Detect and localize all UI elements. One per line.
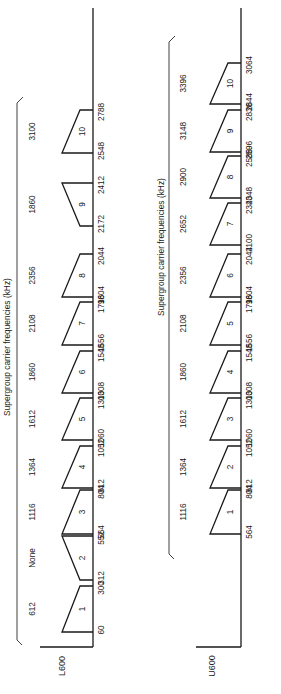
carrier-frequencies-title: Supergroup carrier frequencies (kHz) (156, 178, 166, 316)
supergroup-1: 15648041116 (179, 485, 254, 539)
band-low-frequency: 1308 (245, 381, 254, 400)
supergroup-number: 3 (226, 416, 235, 421)
supergroup-number: 1 (226, 509, 235, 514)
band-low-frequency: 1556 (97, 333, 106, 352)
band-low-frequency: 2100 (245, 233, 254, 252)
supergroup-7: 7210023402652 (179, 195, 254, 252)
supergroup-number: 9 (78, 202, 87, 207)
band-low-frequency: 1804 (97, 285, 106, 304)
carrier-frequency: 1612 (179, 409, 188, 428)
carrier-frequency: 2108 (179, 314, 188, 333)
supergroup-number: 6 (78, 369, 87, 374)
band-low-frequency: 2348 (245, 186, 254, 205)
supergroup-7: 7155617962108 (28, 294, 106, 352)
carrier-frequency: 1364 (28, 457, 37, 476)
carrier-frequency: 3148 (179, 121, 188, 140)
panel-l600: Supergroup carrier frequencies (kHz)L600… (2, 8, 106, 676)
band-high-frequency: 3064 (245, 55, 254, 74)
mastergroup-label: L600 (57, 656, 67, 676)
mastergroup-diagram: Supergroup carrier frequencies (kHz)L600… (0, 0, 281, 694)
carrier-frequency: 3100 (28, 122, 37, 141)
band-low-frequency: 312 (97, 571, 106, 585)
supergroup-number: 1 (78, 606, 87, 611)
band-low-frequency: 812 (97, 479, 106, 493)
supergroup-3: 35648041116 (28, 485, 106, 539)
band-low-frequency: 812 (245, 479, 254, 493)
band-low-frequency: 1804 (245, 285, 254, 304)
carrier-frequency: 612 (28, 602, 37, 616)
carrier-frequency: 1612 (28, 409, 37, 428)
band-low-frequency: 2172 (97, 214, 106, 233)
carrier-frequency: None (28, 548, 37, 568)
panel-u600: Supergroup carrier frequencies (kHz)U600… (156, 8, 254, 677)
carrier-frequency: 1116 (179, 503, 188, 520)
carrier-frequency: 2356 (179, 266, 188, 285)
supergroup-number: 5 (226, 321, 235, 326)
carrier-frequency: 1116 (28, 503, 37, 520)
supergroup-9: 9259628363148 (179, 102, 254, 159)
band-low-frequency: 2844 (245, 92, 254, 111)
mastergroup-label: U600 (207, 655, 217, 677)
band-low-frequency: 564 (97, 525, 106, 539)
band-low-frequency: 1308 (97, 381, 106, 400)
carrier-frequency: 1860 (28, 195, 37, 214)
band-low-frequency: 1060 (245, 428, 254, 447)
supergroup-number: 6 (226, 273, 235, 278)
supergroup-9: 9217224121860 (28, 175, 106, 233)
supergroup-number: 8 (78, 273, 87, 278)
supergroup-number: 5 (78, 416, 87, 421)
supergroup-5: 5106013001612 (28, 390, 106, 447)
carrier-frequency: 2108 (28, 314, 37, 333)
band-low-frequency: 2596 (245, 140, 254, 159)
supergroup-3: 3106013001612 (179, 390, 254, 447)
supergroup-number: 3 (78, 509, 87, 514)
carrier-frequency: 1364 (179, 457, 188, 476)
supergroup-number: 8 (226, 174, 235, 179)
supergroup-number: 10 (226, 79, 235, 89)
band-low-frequency: 564 (245, 525, 254, 539)
band-high-frequency: 2788 (97, 102, 106, 121)
carrier-frequencies-title: Supergroup carrier frequencies (kHz) (2, 278, 12, 416)
band-low-frequency: 2548 (97, 141, 106, 160)
carrier-frequency: 2652 (179, 214, 188, 233)
carrier-bracket (17, 97, 23, 645)
supergroup-number: 2 (226, 464, 235, 469)
supergroup-number: 4 (226, 369, 235, 374)
band-low-frequency: 1060 (97, 428, 106, 447)
supergroup-6: 6130815481860 (28, 343, 106, 400)
supergroup-1: 160300612 (28, 581, 106, 635)
supergroup-2: 2312552None (28, 531, 106, 585)
supergroup-2: 281210521364 (179, 438, 254, 492)
supergroup-number: 2 (78, 555, 87, 560)
supergroup-5: 5155617962108 (179, 294, 254, 352)
band-low-frequency: 1556 (245, 333, 254, 352)
carrier-frequency: 3396 (179, 74, 188, 93)
carrier-frequency: 1860 (28, 362, 37, 381)
supergroup-number: 7 (226, 221, 235, 226)
supergroup-4: 481210521364 (28, 438, 106, 492)
supergroup-8: 8234825882900 (179, 148, 254, 205)
band-low-frequency: 60 (97, 625, 106, 635)
band-high-frequency: 2044 (97, 246, 106, 265)
carrier-bracket (169, 36, 175, 559)
supergroup-10: 10254827883100 (28, 102, 106, 160)
carrier-frequency: 2356 (28, 266, 37, 285)
supergroup-number: 4 (78, 464, 87, 469)
carrier-frequency: 2900 (179, 167, 188, 186)
supergroup-number: 7 (78, 321, 87, 326)
supergroup-8: 8180420442356 (28, 246, 106, 304)
supergroup-6: 6180420442356 (179, 246, 254, 304)
band-high-frequency: 2412 (97, 175, 106, 194)
supergroup-10: 10284430643396 (179, 55, 254, 111)
supergroup-number: 9 (226, 128, 235, 133)
supergroup-4: 4130815481860 (179, 343, 254, 400)
supergroup-number: 10 (78, 127, 87, 137)
carrier-frequency: 1860 (179, 362, 188, 381)
